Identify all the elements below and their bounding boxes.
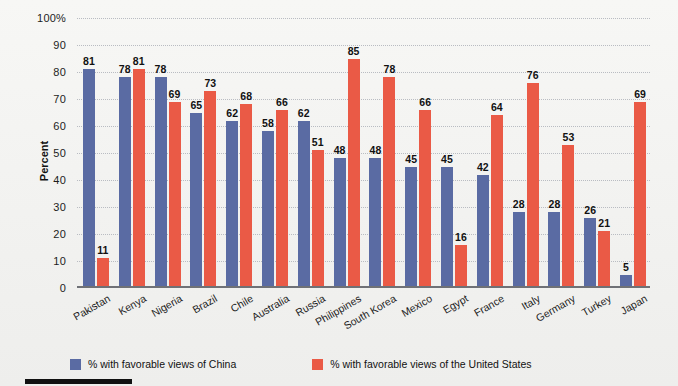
y-axis-tick: 10	[0, 255, 66, 267]
bar-value-label: 69	[627, 88, 653, 100]
bar-value-label: 26	[577, 204, 603, 216]
bar-value-label: 78	[376, 63, 402, 75]
bar-united-states	[419, 110, 431, 288]
bar-value-label: 16	[448, 231, 474, 243]
x-axis-label: Japan	[618, 292, 649, 317]
y-axis-tick: 20	[0, 228, 66, 240]
legend-label-united-states: % with favorable views of the United Sta…	[330, 358, 531, 370]
bar-group: 4878	[369, 18, 395, 288]
y-axis-tick-labels: 100%9080706050403020100	[0, 18, 72, 288]
x-axis-label: Turkey	[580, 292, 613, 318]
bar-china	[334, 158, 346, 288]
bar-value-label: 21	[591, 217, 617, 229]
x-axis-label: Germany	[534, 292, 577, 324]
bar-united-states	[634, 102, 646, 288]
bar-united-states	[598, 231, 610, 288]
bar-group: 7869	[155, 18, 181, 288]
bar-group: 5866	[262, 18, 288, 288]
bar-group: 2853	[548, 18, 574, 288]
bar-group: 7881	[119, 18, 145, 288]
bar-value-label: 78	[148, 63, 174, 75]
bar-china	[405, 167, 417, 289]
bar-china	[477, 175, 489, 288]
bar-united-states	[348, 59, 360, 289]
bar-china	[119, 77, 131, 288]
bar-value-label: 73	[197, 77, 223, 89]
x-axis-line	[77, 286, 650, 288]
legend-swatch-united-states	[312, 359, 323, 370]
bar-china	[262, 131, 274, 288]
x-axis-category-labels: PakistanKenyaNigeriaBrazilChileAustralia…	[77, 292, 650, 350]
y-axis-tick: 40	[0, 174, 66, 186]
bar-group: 4885	[334, 18, 360, 288]
bar-united-states	[455, 245, 467, 288]
bar-group: 4516	[441, 18, 467, 288]
bar-group: 6268	[226, 18, 252, 288]
legend-label-china: % with favorable views of China	[88, 358, 236, 370]
x-axis-label: Italy	[519, 292, 542, 312]
y-axis-tick: 70	[0, 93, 66, 105]
bar-value-label: 66	[412, 96, 438, 108]
chart-legend: % with favorable views of China % with f…	[70, 358, 532, 370]
bar-united-states	[204, 91, 216, 288]
bar-group: 8111	[83, 18, 109, 288]
bar-value-label: 76	[520, 69, 546, 81]
bar-united-states	[527, 83, 539, 288]
bar-value-label: 45	[434, 153, 460, 165]
bar-value-label: 64	[484, 101, 510, 113]
bar-group: 2621	[584, 18, 610, 288]
bar-united-states	[169, 102, 181, 288]
bar-united-states	[562, 145, 574, 288]
bar-group: 6573	[190, 18, 216, 288]
bar-value-label: 11	[90, 244, 116, 256]
bar-group: 6251	[298, 18, 324, 288]
x-axis-label: Egypt	[441, 292, 470, 316]
bar-china	[369, 158, 381, 288]
y-axis-title: Percent	[38, 141, 50, 181]
y-axis-tick: 0	[0, 282, 66, 294]
bar-united-states	[383, 77, 395, 288]
legend-item-united-states: % with favorable views of the United Sta…	[312, 358, 531, 370]
y-axis-tick: 90	[0, 39, 66, 51]
bar-group: 4566	[405, 18, 431, 288]
y-axis-tick: 60	[0, 120, 66, 132]
bar-group: 569	[620, 18, 646, 288]
y-axis-tick: 50	[0, 147, 66, 159]
bar-group: 2876	[513, 18, 539, 288]
bar-united-states	[133, 69, 145, 288]
legend-swatch-china	[70, 359, 81, 370]
bar-china	[441, 167, 453, 289]
bar-united-states	[312, 150, 324, 288]
x-axis-label: Pakistan	[71, 292, 112, 323]
bar-value-label: 81	[76, 55, 102, 67]
x-axis-label: France	[472, 292, 506, 319]
bar-china	[190, 113, 202, 289]
bar-united-states	[276, 110, 288, 288]
bar-group: 4264	[477, 18, 503, 288]
x-axis-label: Mexico	[399, 292, 434, 319]
x-axis-label: Nigeria	[149, 292, 184, 319]
legend-spacer	[236, 364, 312, 365]
bar-china	[155, 77, 167, 288]
bar-china	[226, 121, 238, 288]
x-axis-label: Kenya	[116, 292, 148, 317]
bar-china	[548, 212, 560, 288]
bar-united-states	[491, 115, 503, 288]
legend-item-china: % with favorable views of China	[70, 358, 236, 370]
bar-value-label: 68	[233, 90, 259, 102]
x-axis-label: Brazil	[191, 292, 220, 316]
y-axis-tick: 100%	[0, 12, 66, 24]
bar-value-label: 62	[291, 107, 317, 119]
x-axis-label: Australia	[250, 292, 291, 323]
y-axis-tick: 30	[0, 201, 66, 213]
bar-value-label: 85	[341, 45, 367, 57]
bar-united-states	[97, 258, 109, 288]
chart-page: 100%9080706050403020100 Percent 81117881…	[0, 0, 678, 386]
bar-value-label: 53	[555, 131, 581, 143]
plot-area: 8111788178696573626858666251488548784566…	[77, 18, 650, 288]
y-axis-tick: 80	[0, 66, 66, 78]
bar-china	[513, 212, 525, 288]
footer-rule	[25, 379, 132, 384]
bar-united-states	[240, 104, 252, 288]
